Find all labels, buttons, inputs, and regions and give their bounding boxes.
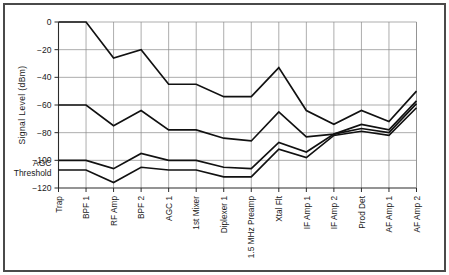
agc-threshold-label-line1: AGC xyxy=(33,158,51,168)
x-category-label: AF Amp 1 xyxy=(384,196,394,233)
ytick-label--20: −20 xyxy=(37,45,52,55)
x-category-label: Diplexer 1 xyxy=(219,196,229,234)
x-category-label: Prod Det xyxy=(357,195,367,228)
x-category-label: 1st Mixer xyxy=(191,196,201,230)
chart-annotations: AGCThreshold xyxy=(14,158,52,178)
y-axis-title: Signal Level (dBm) xyxy=(17,65,27,144)
horizontal-gridlines xyxy=(59,50,417,161)
ytick-label-0: 0 xyxy=(47,17,52,27)
x-category-label: IF Amp 1 xyxy=(302,196,312,230)
series-line-0: Strong signal level xyxy=(59,22,417,124)
x-category-label: RF Amp xyxy=(109,196,119,226)
data-series-lines: Strong signal levelMedium signal levelWe… xyxy=(59,22,417,182)
x-category-label: Xtal Flt xyxy=(274,195,284,222)
series-line-2: Weak signal level xyxy=(59,104,417,169)
x-axis-category-labels: TrapBPF 1RF AmpBPF 2AGC 11st MixerDiplex… xyxy=(54,195,422,258)
ytick-label--80: −80 xyxy=(37,128,52,138)
agc-threshold-label-line2: Threshold xyxy=(14,168,52,178)
x-category-label: AGC 1 xyxy=(164,196,174,221)
x-category-label: AF Amp 2 xyxy=(412,196,422,233)
x-category-label: BPF 2 xyxy=(136,196,146,219)
x-category-label: BPF 1 xyxy=(81,196,91,219)
series-line-3: AGC threshold signal level xyxy=(59,108,417,183)
x-axis-tickmarks xyxy=(59,188,417,192)
x-category-label: 1.5 MHz Preamp xyxy=(246,196,256,259)
x-category-label: Trap xyxy=(54,196,64,213)
x-category-label: IF Amp 2 xyxy=(329,196,339,230)
signal-level-line-chart: 0−20−40−60−80−100−120 TrapBPF 1RF AmpBPF… xyxy=(0,0,449,275)
ytick-label--60: −60 xyxy=(37,100,52,110)
ytick-label--40: −40 xyxy=(37,72,52,82)
ytick-label--120: −120 xyxy=(32,183,51,193)
figure-container: 0−20−40−60−80−100−120 TrapBPF 1RF AmpBPF… xyxy=(0,0,449,275)
series-line-1: Medium signal level xyxy=(59,101,417,141)
